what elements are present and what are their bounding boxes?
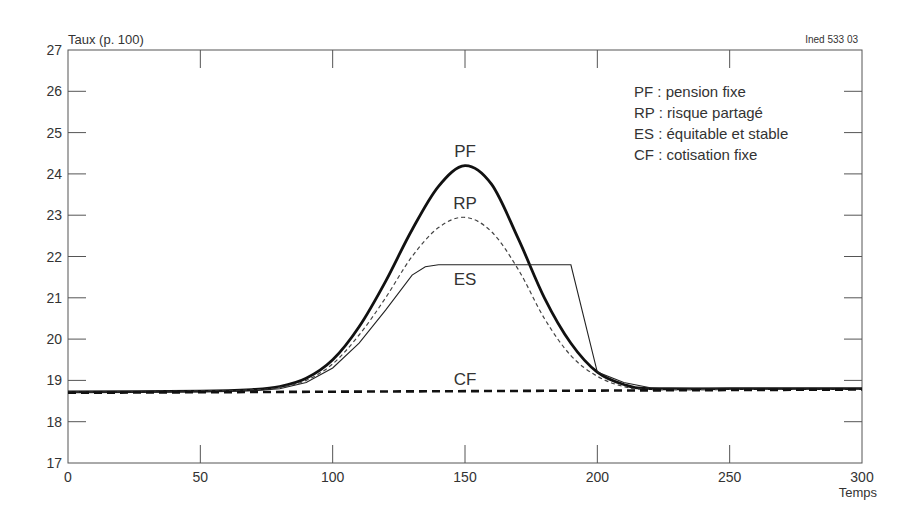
legend: PF : pension fixeRP : risque partagéES :…: [634, 83, 788, 163]
curve-label-cf: CF: [454, 370, 477, 389]
y-axis-label: Taux (p. 100): [68, 32, 144, 47]
y-tick-label: 25: [46, 125, 62, 141]
y-tick-label: 17: [46, 455, 62, 471]
y-tick-label: 18: [46, 414, 62, 430]
legend-item: CF : cotisation fixe: [634, 146, 757, 163]
x-tick-label: 150: [453, 469, 477, 485]
y-tick-label: 27: [46, 42, 62, 58]
legend-item: RP : risque partagé: [634, 104, 763, 121]
y-tick-label: 20: [46, 331, 62, 347]
curve-label-rp: RP: [453, 194, 477, 213]
x-tick-label: 250: [718, 469, 742, 485]
x-tick-label: 50: [193, 469, 209, 485]
y-tick-label: 22: [46, 249, 62, 265]
legend-item: ES : équitable et stable: [634, 125, 788, 142]
x-axis-label: Temps: [839, 485, 878, 500]
x-tick-label: 300: [850, 469, 874, 485]
source-note: Ined 533 03: [805, 34, 858, 45]
y-tick-label: 23: [46, 207, 62, 223]
x-tick-label: 200: [586, 469, 610, 485]
curve-label-es: ES: [454, 270, 477, 289]
line-chart: 1718192021222324252627050100150200250300…: [0, 0, 910, 525]
y-tick-label: 24: [46, 166, 62, 182]
y-tick-label: 26: [46, 83, 62, 99]
series-rp-line: [68, 217, 862, 392]
y-tick-label: 21: [46, 290, 62, 306]
x-tick-label: 0: [64, 469, 72, 485]
legend-item: PF : pension fixe: [634, 83, 746, 100]
curve-labels: PFRPESCF: [453, 142, 477, 388]
x-tick-label: 100: [321, 469, 345, 485]
y-tick-label: 19: [46, 372, 62, 388]
curve-label-pf: PF: [454, 142, 476, 161]
